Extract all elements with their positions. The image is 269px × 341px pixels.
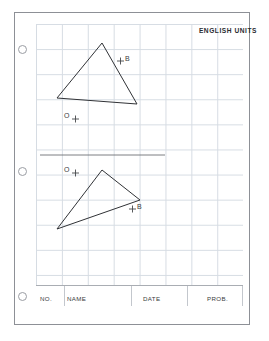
worksheet-page: O B O B ENGLISH UNITS NO. NAME DATE PROB… xyxy=(0,0,269,341)
upper-label-o: O xyxy=(64,112,70,119)
punch-hole-margin xyxy=(15,13,36,324)
punch-hole-icon xyxy=(18,167,27,176)
title-block-label-no: NO. xyxy=(40,295,52,302)
lower-label-b: B xyxy=(137,203,142,210)
lower-label-o: O xyxy=(64,166,70,173)
title-block-label-prob: PROB. xyxy=(207,295,228,302)
title-block-label-date: DATE xyxy=(143,295,160,302)
graph-grid xyxy=(36,24,243,285)
english-units-label: ENGLISH UNITS xyxy=(199,27,257,34)
punch-hole-icon xyxy=(18,45,27,54)
upper-label-b: B xyxy=(125,55,130,62)
punch-hole-icon xyxy=(18,292,27,301)
title-block: NO. NAME DATE PROB. xyxy=(36,285,243,305)
title-block-label-name: NAME xyxy=(67,295,86,302)
